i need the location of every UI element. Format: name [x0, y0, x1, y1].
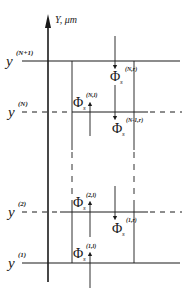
svg-text:(N,r): (N,r)	[125, 66, 137, 73]
svg-text:s: s	[120, 78, 123, 86]
svg-text:s: s	[83, 104, 86, 112]
flux-phi-1-l: Φ s (1,l)	[73, 243, 96, 288]
level-label-base: y	[6, 204, 15, 220]
svg-text:(N,l): (N,l)	[86, 92, 98, 99]
svg-text:Φ: Φ	[110, 69, 120, 84]
svg-text:s: s	[83, 204, 86, 212]
y-axis-label: Y, μm	[55, 14, 77, 25]
level-label-base: y	[6, 255, 15, 271]
level-label-sup: (N)	[18, 100, 28, 108]
svg-text:s: s	[122, 230, 125, 238]
flux-layer-diagram: Y, μm y (N+1) y (N) y (2) y (1)	[0, 0, 186, 298]
svg-text:Φ: Φ	[112, 121, 122, 136]
svg-text:s: s	[83, 255, 86, 263]
level-label-base: y	[4, 53, 13, 69]
svg-text:Φ: Φ	[73, 195, 83, 210]
level-y1: y (1)	[6, 251, 180, 271]
level-label-sup: (1)	[18, 251, 26, 259]
level-label-base: y	[6, 104, 15, 120]
svg-text:(1,l): (1,l)	[86, 243, 96, 250]
flux-phi-2-l: Φ s (2,l)	[73, 192, 96, 237]
svg-text:(N-1,r): (N-1,r)	[126, 117, 143, 124]
svg-text:(1,r): (1,r)	[126, 217, 137, 224]
svg-text:s: s	[122, 130, 125, 138]
level-label-sup: (N+1)	[16, 49, 33, 57]
svg-text:Φ: Φ	[73, 246, 83, 261]
svg-text:Φ: Φ	[73, 95, 83, 110]
level-label-sup: (2)	[18, 200, 26, 208]
svg-text:(2,l): (2,l)	[86, 192, 96, 199]
y-axis-arrow-icon	[45, 14, 51, 28]
level-y2: y (2)	[6, 200, 182, 220]
level-yN: y (N)	[6, 100, 182, 120]
level-yN1: y (N+1)	[4, 49, 180, 69]
svg-text:Φ: Φ	[112, 221, 122, 236]
flux-phi-N-l: Φ s (N,l)	[73, 92, 98, 136]
